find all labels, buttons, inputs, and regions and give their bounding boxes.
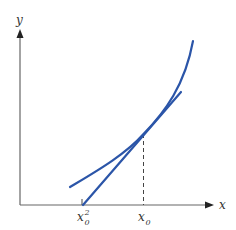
function-curve (70, 41, 193, 187)
y-axis-arrow-icon (17, 29, 24, 38)
svg-text:x: x (77, 210, 84, 224)
x-axis-label: x (219, 198, 226, 212)
x0-squared-label: x 0 2 (77, 208, 90, 227)
x-axis-arrow-icon (205, 202, 214, 209)
x0-label: x 0 (138, 210, 151, 227)
y-axis-label: y (15, 13, 23, 27)
svg-text:0: 0 (146, 218, 151, 227)
svg-text:2: 2 (84, 208, 90, 217)
svg-text:x: x (138, 210, 145, 224)
diagram-canvas: y x x 0 2 x 0 (0, 0, 236, 230)
tangent-line (83, 92, 181, 205)
newton-method-diagram: y x x 0 2 x 0 (0, 0, 236, 230)
svg-text:0: 0 (85, 218, 90, 227)
